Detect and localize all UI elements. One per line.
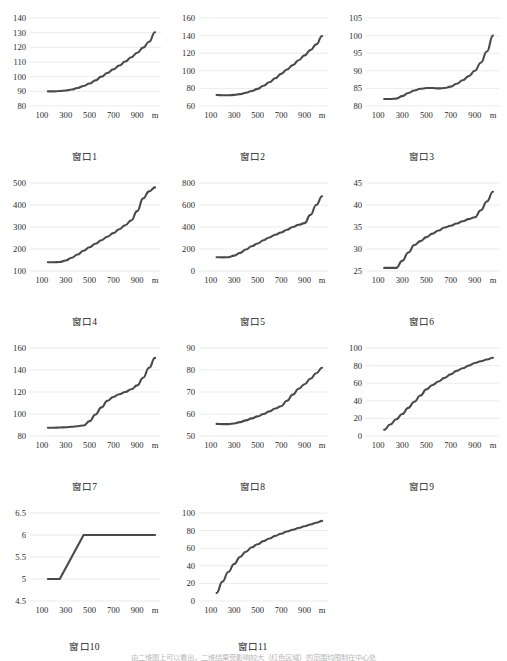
y-axis-tick-label: 80 bbox=[17, 101, 26, 111]
y-axis-tick-label: 90 bbox=[17, 86, 26, 96]
y-axis-tick-label: 60 bbox=[353, 378, 362, 388]
line-chart[interactable]: 5060708090100300500700900m窗口8 bbox=[169, 334, 336, 499]
chart-cell: 80859095100105100300500700900m窗口3 bbox=[336, 4, 507, 169]
x-axis-unit-label: m bbox=[152, 110, 159, 120]
x-axis-unit-label: m bbox=[490, 275, 497, 285]
y-axis-tick-label: 120 bbox=[182, 48, 195, 58]
chart-caption: 窗口6 bbox=[336, 317, 507, 328]
x-axis-tick-label: 300 bbox=[228, 440, 241, 450]
y-axis-tick-label: 110 bbox=[13, 57, 26, 67]
x-axis-tick-label: 100 bbox=[204, 605, 217, 615]
y-axis-tick-label: 105 bbox=[349, 13, 362, 23]
line-chart[interactable]: 8090100110120130140100300500700900m窗口1 bbox=[0, 4, 169, 169]
x-axis-tick-label: 700 bbox=[275, 275, 288, 285]
y-axis-tick-label: 200 bbox=[182, 244, 195, 254]
y-axis-tick-label: 100 bbox=[13, 266, 26, 276]
y-axis-tick-label: 70 bbox=[186, 387, 195, 397]
x-axis-tick-label: 500 bbox=[83, 605, 96, 615]
x-axis-unit-label: m bbox=[319, 275, 326, 285]
line-chart[interactable]: 6080100120140160100300500700900m窗口2 bbox=[169, 4, 336, 169]
line-chart[interactable]: 020406080100100300500700900m窗口9 bbox=[336, 334, 507, 499]
y-axis-tick-label: 45 bbox=[353, 178, 362, 188]
x-axis-tick-label: 300 bbox=[59, 110, 72, 120]
x-axis-tick-label: 900 bbox=[298, 440, 311, 450]
chart-cell: 020406080100100300500700900m窗口9 bbox=[336, 334, 507, 499]
y-axis-tick-label: 5 bbox=[22, 574, 26, 584]
x-axis-unit-label: m bbox=[490, 110, 497, 120]
chart-cell: 4.555.566.5100300500700900m窗口10 bbox=[0, 499, 169, 659]
x-axis-tick-label: 300 bbox=[396, 110, 409, 120]
x-axis-unit-label: m bbox=[319, 110, 326, 120]
chart-plot-area: 020406080100100300500700900m bbox=[336, 334, 507, 462]
y-axis-tick-label: 90 bbox=[186, 343, 195, 353]
x-axis-tick-label: 100 bbox=[35, 275, 48, 285]
figure-footnote: 由二维图上可以看出，二维结果受影响较大（红色区域）的范围均限制在中心处 bbox=[0, 653, 507, 661]
y-axis-tick-label: 90 bbox=[353, 66, 362, 76]
chart-cell: 8090100110120130140100300500700900m窗口1 bbox=[0, 4, 169, 169]
x-axis-tick-label: 700 bbox=[275, 440, 288, 450]
chart-plot-area: 80859095100105100300500700900m bbox=[336, 4, 507, 132]
y-axis-tick-label: 160 bbox=[13, 343, 26, 353]
chart-caption: 窗口3 bbox=[336, 152, 507, 163]
y-axis-tick-label: 5.5 bbox=[15, 552, 26, 562]
chart-caption: 窗口11 bbox=[169, 642, 336, 653]
line-chart[interactable]: 4.555.566.5100300500700900m窗口10 bbox=[0, 499, 169, 659]
line-chart[interactable]: 2530354045100300500700900m窗口6 bbox=[336, 169, 507, 334]
x-axis-tick-label: 900 bbox=[131, 275, 144, 285]
chart-caption: 窗口9 bbox=[336, 482, 507, 493]
chart-grid: 8090100110120130140100300500700900m窗口160… bbox=[0, 4, 507, 659]
x-axis-tick-label: 900 bbox=[298, 110, 311, 120]
y-axis-tick-label: 0 bbox=[191, 266, 195, 276]
line-chart[interactable]: 80100120140160100300500700900m窗口7 bbox=[0, 334, 169, 499]
line-chart[interactable]: 80859095100105100300500700900m窗口3 bbox=[336, 4, 507, 169]
x-axis-unit-label: m bbox=[152, 440, 159, 450]
y-axis-tick-label: 6 bbox=[22, 530, 27, 540]
x-axis-tick-label: 100 bbox=[204, 110, 217, 120]
series-line bbox=[384, 192, 493, 268]
chart-plot-area: 020406080100100300500700900m bbox=[169, 499, 336, 627]
x-axis-tick-label: 700 bbox=[444, 440, 457, 450]
y-axis-tick-label: 95 bbox=[353, 48, 362, 58]
y-axis-tick-label: 160 bbox=[182, 13, 195, 23]
chart-caption: 窗口2 bbox=[169, 152, 336, 163]
y-axis-tick-label: 85 bbox=[353, 83, 362, 93]
x-axis-tick-label: 100 bbox=[35, 605, 48, 615]
y-axis-tick-label: 30 bbox=[353, 244, 362, 254]
y-axis-tick-label: 140 bbox=[13, 365, 26, 375]
y-axis-tick-label: 25 bbox=[353, 266, 362, 276]
line-chart[interactable]: 100200300400500100300500700900m窗口4 bbox=[0, 169, 169, 334]
y-axis-tick-label: 20 bbox=[353, 413, 362, 423]
x-axis-tick-label: 500 bbox=[251, 440, 264, 450]
x-axis-unit-label: m bbox=[319, 440, 326, 450]
x-axis-tick-label: 300 bbox=[396, 440, 409, 450]
x-axis-tick-label: 500 bbox=[83, 275, 96, 285]
x-axis-tick-label: 300 bbox=[59, 605, 72, 615]
y-axis-tick-label: 400 bbox=[182, 222, 195, 232]
series-line bbox=[48, 358, 155, 428]
y-axis-tick-label: 100 bbox=[182, 66, 195, 76]
x-axis-tick-label: 700 bbox=[444, 110, 457, 120]
x-axis-unit-label: m bbox=[152, 275, 159, 285]
series-line bbox=[217, 521, 323, 593]
line-chart[interactable]: 020406080100100300500700900m窗口11 bbox=[169, 499, 336, 659]
chart-plot-area: 8090100110120130140100300500700900m bbox=[0, 4, 169, 132]
x-axis-tick-label: 900 bbox=[468, 275, 481, 285]
y-axis-tick-label: 140 bbox=[13, 13, 26, 23]
x-axis-unit-label: m bbox=[152, 605, 159, 615]
series-line bbox=[48, 187, 155, 262]
x-axis-tick-label: 700 bbox=[107, 275, 120, 285]
y-axis-tick-label: 40 bbox=[353, 200, 362, 210]
y-axis-tick-label: 100 bbox=[349, 343, 362, 353]
x-axis-tick-label: 700 bbox=[107, 605, 120, 615]
chart-caption: 窗口7 bbox=[0, 482, 169, 493]
chart-caption: 窗口5 bbox=[169, 317, 336, 328]
y-axis-tick-label: 6.5 bbox=[15, 508, 26, 518]
line-chart[interactable]: 0200400600800100300500700900m窗口5 bbox=[169, 169, 336, 334]
y-axis-tick-label: 400 bbox=[13, 200, 26, 210]
chart-caption: 窗口4 bbox=[0, 317, 169, 328]
x-axis-tick-label: 500 bbox=[251, 605, 264, 615]
y-axis-tick-label: 100 bbox=[349, 31, 362, 41]
x-axis-tick-label: 900 bbox=[298, 275, 311, 285]
y-axis-tick-label: 80 bbox=[186, 365, 195, 375]
x-axis-tick-label: 700 bbox=[444, 275, 457, 285]
